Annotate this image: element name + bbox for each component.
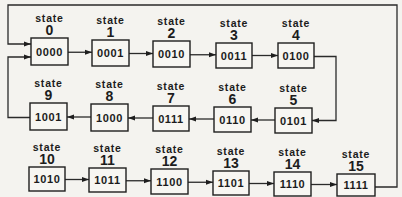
arrowhead-icon bbox=[267, 181, 274, 186]
state-node-11: state111011 bbox=[89, 142, 126, 192]
arrowhead-icon bbox=[189, 116, 196, 121]
arrowhead-icon bbox=[82, 177, 89, 182]
state-binary-code: 1110 bbox=[280, 178, 306, 190]
state-node-7: state70111 bbox=[153, 80, 189, 131]
state-number-label: 13 bbox=[223, 155, 239, 171]
state-number-label: 5 bbox=[290, 92, 298, 108]
transition-14-to-15 bbox=[311, 182, 337, 187]
state-number-label: 3 bbox=[230, 27, 238, 43]
state-nodes: state00000state10001state20010state30011… bbox=[29, 12, 375, 196]
state-binary-code: 1011 bbox=[94, 174, 120, 186]
state-node-0: state00000 bbox=[31, 12, 68, 65]
arrowhead-icon bbox=[271, 53, 278, 58]
state-number-label: 12 bbox=[162, 153, 178, 169]
arrowhead-icon bbox=[251, 117, 258, 122]
state-binary-code: 0110 bbox=[219, 114, 245, 126]
state-node-15: state151111 bbox=[337, 148, 375, 196]
state-number-label: 6 bbox=[229, 91, 237, 107]
state-number-label: 9 bbox=[45, 87, 53, 103]
state-number-label: 4 bbox=[292, 27, 300, 43]
arrowhead-icon bbox=[24, 54, 31, 59]
state-number-label: 7 bbox=[167, 90, 175, 106]
state-binary-code: 0000 bbox=[36, 46, 63, 58]
transition-4-to-5 bbox=[312, 57, 336, 124]
transition-wires bbox=[8, 5, 397, 187]
transition-11-to-12 bbox=[126, 178, 151, 183]
state-node-4: state40100 bbox=[278, 17, 314, 68]
transition-7-to-8 bbox=[128, 115, 153, 120]
arrowhead-icon bbox=[330, 182, 337, 187]
arrowhead-icon bbox=[206, 180, 213, 185]
state-number-label: 8 bbox=[106, 88, 114, 104]
state-node-13: state131101 bbox=[213, 145, 249, 195]
state-binary-code: 0100 bbox=[283, 50, 310, 62]
transition-10-to-11 bbox=[65, 177, 89, 182]
state-binary-code: 1010 bbox=[34, 173, 61, 185]
transition-0-to-1 bbox=[68, 50, 92, 55]
transition-3-to-4 bbox=[252, 53, 278, 58]
state-number-label: 2 bbox=[168, 25, 176, 41]
state-number-label: 11 bbox=[100, 152, 115, 168]
transition-9-to-0 bbox=[8, 54, 31, 117]
state-number-label: 0 bbox=[46, 22, 54, 38]
state-node-14: state141110 bbox=[274, 146, 311, 196]
state-node-10: state101010 bbox=[29, 141, 65, 191]
state-node-8: state81000 bbox=[91, 78, 128, 131]
transition-1-to-2 bbox=[129, 51, 153, 56]
state-binary-code: 1001 bbox=[35, 111, 62, 123]
state-number-label: 14 bbox=[285, 156, 301, 172]
state-binary-code: 1111 bbox=[343, 179, 368, 191]
state-node-6: state60110 bbox=[214, 81, 251, 132]
state-binary-code: 0001 bbox=[97, 47, 124, 59]
arrowhead-icon bbox=[85, 50, 92, 55]
state-binary-code: 0011 bbox=[221, 50, 247, 62]
state-binary-code: 0101 bbox=[280, 115, 307, 127]
state-binary-code: 0111 bbox=[158, 113, 184, 125]
state-node-9: state91001 bbox=[30, 77, 67, 130]
state-number-label: 10 bbox=[39, 151, 55, 167]
state-binary-code: 1000 bbox=[96, 112, 123, 124]
state-number-label: 1 bbox=[107, 24, 115, 40]
transition-15-to-0 bbox=[8, 5, 397, 187]
transition-12-to-13 bbox=[188, 180, 213, 185]
state-binary-code: 1101 bbox=[218, 177, 244, 189]
arrowhead-icon bbox=[67, 114, 74, 119]
arrowhead-icon bbox=[209, 52, 216, 57]
arrowhead-icon bbox=[146, 51, 153, 56]
transition-13-to-14 bbox=[249, 181, 274, 186]
transition-6-to-7 bbox=[189, 116, 214, 121]
arrowhead-icon bbox=[128, 115, 135, 120]
state-number-label: 15 bbox=[348, 158, 364, 174]
state-node-12: state121100 bbox=[151, 143, 188, 194]
state-node-5: state50101 bbox=[275, 82, 312, 133]
arrowhead-icon bbox=[24, 41, 31, 46]
transition-5-to-6 bbox=[251, 117, 275, 122]
state-sequence-diagram: state00000state10001state20010state30011… bbox=[0, 0, 402, 197]
transition-2-to-3 bbox=[190, 52, 216, 57]
state-node-2: state20010 bbox=[153, 15, 190, 67]
transition-8-to-9 bbox=[67, 114, 91, 119]
arrowhead-icon bbox=[312, 118, 319, 123]
state-node-1: state10001 bbox=[92, 14, 129, 66]
state-node-3: state30011 bbox=[216, 17, 252, 68]
arrowhead-icon bbox=[144, 178, 151, 183]
state-binary-code: 0010 bbox=[158, 48, 185, 60]
state-binary-code: 1100 bbox=[156, 176, 182, 188]
